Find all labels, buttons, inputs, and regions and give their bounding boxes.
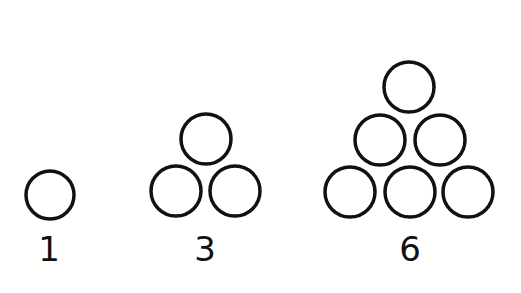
circle xyxy=(26,171,74,219)
group-label-3: 3 xyxy=(194,232,216,266)
circle-group-1 xyxy=(26,171,74,219)
circle xyxy=(151,166,201,216)
circle-group-3 xyxy=(151,114,260,216)
group-label-6: 6 xyxy=(399,232,421,266)
group-label-1: 1 xyxy=(38,232,60,266)
circle xyxy=(181,114,231,164)
circle xyxy=(384,62,434,112)
circle xyxy=(415,115,465,165)
circle xyxy=(325,167,375,217)
circle-group-6 xyxy=(325,62,493,217)
triangular-numbers-diagram xyxy=(0,0,521,293)
circle xyxy=(210,166,260,216)
circle xyxy=(355,115,405,165)
circle xyxy=(385,167,435,217)
circle xyxy=(443,167,493,217)
